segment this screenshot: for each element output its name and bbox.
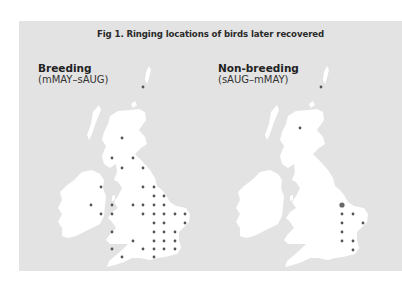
- breeding-period: (mMAY–sAUG): [38, 74, 108, 86]
- breeding-title: Breeding: [38, 62, 108, 74]
- breeding-label: Breeding (mMAY–sAUG): [38, 62, 108, 86]
- map-non-breeding: [236, 66, 368, 267]
- map-breeding: [58, 66, 190, 267]
- non-breeding-title: Non-breeding: [218, 62, 299, 74]
- non-breeding-period: (sAUG–mMAY): [218, 74, 299, 86]
- non-breeding-label: Non-breeding (sAUG–mMAY): [218, 62, 299, 86]
- maps-svg: [0, 0, 402, 289]
